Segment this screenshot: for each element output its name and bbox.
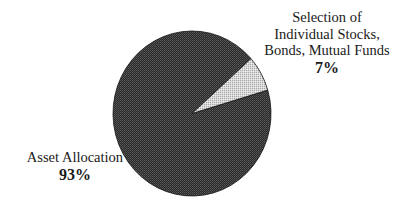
label-asset-allocation-line1: Asset Allocation xyxy=(20,149,130,166)
label-asset-allocation-slice: Asset Allocation 93% xyxy=(20,149,130,184)
label-asset-allocation-percent: 93% xyxy=(20,166,130,184)
label-selection-line2: Individual Stocks, xyxy=(262,26,392,43)
label-selection-line3: Bonds, Mutual Funds xyxy=(262,42,392,59)
label-selection-percent: 7% xyxy=(262,59,392,77)
label-selection-slice: Selection of Individual Stocks, Bonds, M… xyxy=(262,9,392,77)
label-selection-line1: Selection of xyxy=(262,9,392,26)
